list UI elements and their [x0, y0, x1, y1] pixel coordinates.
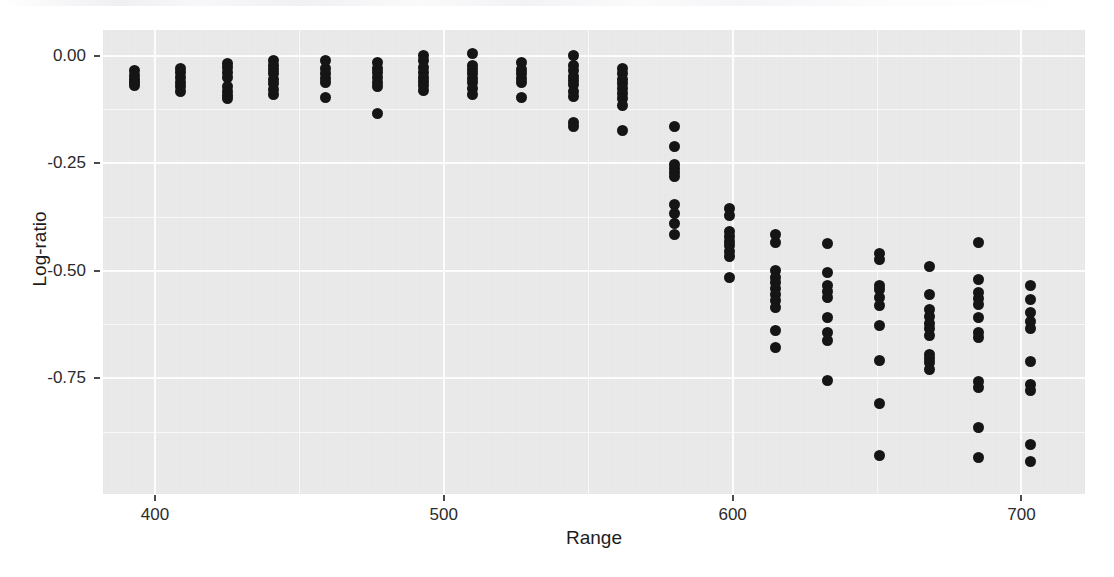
y-axis-tick-mark: [94, 55, 100, 57]
data-point: [724, 272, 735, 283]
grid-line-horizontal-major: [103, 377, 1085, 379]
data-point: [874, 355, 885, 366]
grid-line-horizontal-minor: [103, 217, 1085, 218]
data-point: [1025, 280, 1036, 291]
data-point: [874, 320, 885, 331]
data-point: [516, 77, 527, 88]
grid-line-horizontal-major: [103, 162, 1085, 164]
data-point: [669, 171, 680, 182]
data-point: [268, 89, 279, 100]
data-point: [467, 89, 478, 100]
data-point: [973, 312, 984, 323]
data-point: [617, 100, 628, 111]
data-point: [924, 261, 935, 272]
scan-edge-artifact: [0, 0, 1114, 6]
x-axis-tick-mark: [154, 495, 156, 501]
grid-line-horizontal-minor: [103, 432, 1085, 433]
grid-line-horizontal-minor: [103, 324, 1085, 325]
data-point: [874, 254, 885, 265]
data-point: [973, 299, 984, 310]
grid-line-vertical-major: [154, 30, 156, 494]
grid-line-horizontal-major: [103, 55, 1085, 57]
data-point: [973, 237, 984, 248]
data-point: [516, 92, 527, 103]
data-point: [669, 141, 680, 152]
data-point: [822, 312, 833, 323]
data-point: [973, 274, 984, 285]
x-axis-tick-mark: [1020, 495, 1022, 501]
data-point: [1025, 294, 1036, 305]
data-point: [973, 382, 984, 393]
data-point: [822, 335, 833, 346]
data-point: [770, 342, 781, 353]
data-point: [568, 121, 579, 132]
y-axis-tick-mark: [94, 377, 100, 379]
y-axis-tick-label: 0.00: [8, 47, 86, 64]
data-point: [669, 218, 680, 229]
x-axis-tick-label: 700: [981, 506, 1061, 523]
data-point: [372, 81, 383, 92]
data-point: [1025, 323, 1036, 334]
grid-line-horizontal-major: [103, 270, 1085, 272]
y-axis-title: Log-ratio: [29, 149, 51, 349]
grid-line-vertical-major: [732, 30, 734, 494]
data-point: [874, 300, 885, 311]
data-point: [973, 452, 984, 463]
data-point: [874, 398, 885, 409]
x-axis-tick-mark: [443, 495, 445, 501]
data-point: [874, 450, 885, 461]
y-axis-tick-mark: [94, 162, 100, 164]
y-axis-tick-label: -0.75: [8, 369, 86, 386]
scatter-plot-figure: 0.00-0.25-0.50-0.75 400500600700 Range L…: [0, 0, 1114, 577]
data-point: [924, 289, 935, 300]
data-point: [467, 48, 478, 59]
data-point: [320, 77, 331, 88]
x-axis-title: Range: [103, 527, 1085, 549]
data-point: [1025, 456, 1036, 467]
y-axis-tick-mark: [94, 270, 100, 272]
data-point: [822, 292, 833, 303]
data-point: [1025, 439, 1036, 450]
data-point: [770, 302, 781, 313]
data-point: [372, 108, 383, 119]
grid-line-vertical-major: [1020, 30, 1022, 494]
data-point: [822, 267, 833, 278]
x-axis-tick-mark: [732, 495, 734, 501]
data-point: [617, 125, 628, 136]
scan-grain-overlay: [103, 30, 1085, 494]
grid-line-horizontal-minor: [103, 109, 1085, 110]
data-point: [129, 80, 140, 91]
data-point: [822, 375, 833, 386]
data-point: [418, 85, 429, 96]
data-point: [175, 86, 186, 97]
x-axis-tick-label: 500: [404, 506, 484, 523]
grid-line-vertical-minor: [299, 30, 300, 494]
data-point: [222, 93, 233, 104]
data-point: [770, 237, 781, 248]
data-point: [770, 325, 781, 336]
data-point: [1025, 385, 1036, 396]
data-point: [568, 91, 579, 102]
data-point: [669, 121, 680, 132]
data-point: [924, 330, 935, 341]
plot-panel: [103, 30, 1085, 494]
data-point: [973, 422, 984, 433]
data-point: [822, 238, 833, 249]
grid-line-vertical-major: [443, 30, 445, 494]
data-point: [973, 332, 984, 343]
data-point: [1025, 356, 1036, 367]
data-point: [320, 92, 331, 103]
x-axis-tick-label: 600: [693, 506, 773, 523]
x-axis-tick-label: 400: [115, 506, 195, 523]
data-point: [924, 364, 935, 375]
data-point: [669, 229, 680, 240]
grid-line-vertical-minor: [588, 30, 589, 494]
